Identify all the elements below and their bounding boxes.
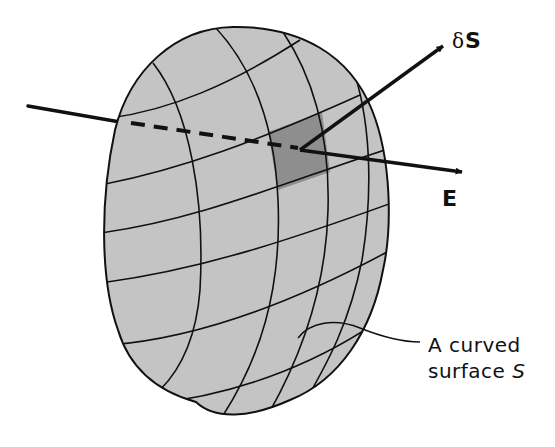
label-E: E	[442, 186, 457, 211]
figure: δS E A curved surface S	[0, 0, 555, 447]
curved-surface	[100, 27, 400, 420]
label-dS-letter: S	[465, 28, 481, 53]
label-surface-text: surface	[428, 359, 512, 383]
label-dS-delta: δ	[452, 29, 464, 53]
label-curved-surface: A curved surface S	[428, 332, 525, 384]
label-surface-line1: A curved	[428, 332, 525, 358]
label-surface-line2: surface S	[428, 358, 525, 384]
field-line-incoming	[28, 106, 120, 122]
label-dS: δS	[452, 28, 481, 53]
label-surface-symbol: S	[512, 359, 525, 383]
